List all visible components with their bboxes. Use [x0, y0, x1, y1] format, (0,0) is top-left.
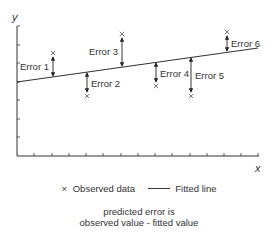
error-1: Error 1: [20, 51, 55, 76]
legend-fitted-label: Fitted line: [175, 183, 216, 194]
error-6: Error 6: [225, 30, 260, 51]
observed-point-icon: [154, 84, 158, 88]
y-axis-label: y: [11, 11, 19, 23]
error-annotations: Error 1Error 2Error 3Error 4Error 5Error…: [20, 30, 260, 98]
observed-point-icon: [51, 51, 55, 55]
observed-point-icon: [225, 30, 229, 34]
regression-diagram: Error 1Error 2Error 3Error 4Error 5Error…: [0, 0, 278, 180]
error-3: Error 3: [89, 32, 124, 66]
legend-observed-label: Observed data: [73, 183, 135, 194]
error-4: Error 4: [154, 63, 189, 88]
caption: predicted error is observed value - fitt…: [0, 206, 278, 228]
error-label: Error 4: [160, 68, 189, 79]
error-2: Error 2: [85, 73, 120, 98]
x-axis-label: x: [254, 162, 261, 174]
observed-point-icon: [189, 94, 193, 98]
error-label: Error 3: [89, 46, 118, 57]
error-label: Error 2: [91, 78, 120, 89]
caption-line-1: predicted error is: [0, 206, 278, 217]
error-label: Error 5: [195, 70, 224, 81]
error-label: Error 1: [20, 61, 49, 72]
caption-line-2: observed value - fitted value: [0, 217, 278, 228]
error-5: Error 5: [189, 58, 224, 98]
error-label: Error 6: [231, 38, 260, 49]
legend: × Observed data Fitted line: [0, 182, 278, 194]
observed-point-icon: [85, 94, 89, 98]
observed-point-icon: [120, 32, 124, 36]
axes: [17, 26, 259, 156]
fitted-line-swatch-icon: [148, 188, 170, 189]
observed-marker-icon: ×: [62, 183, 68, 194]
